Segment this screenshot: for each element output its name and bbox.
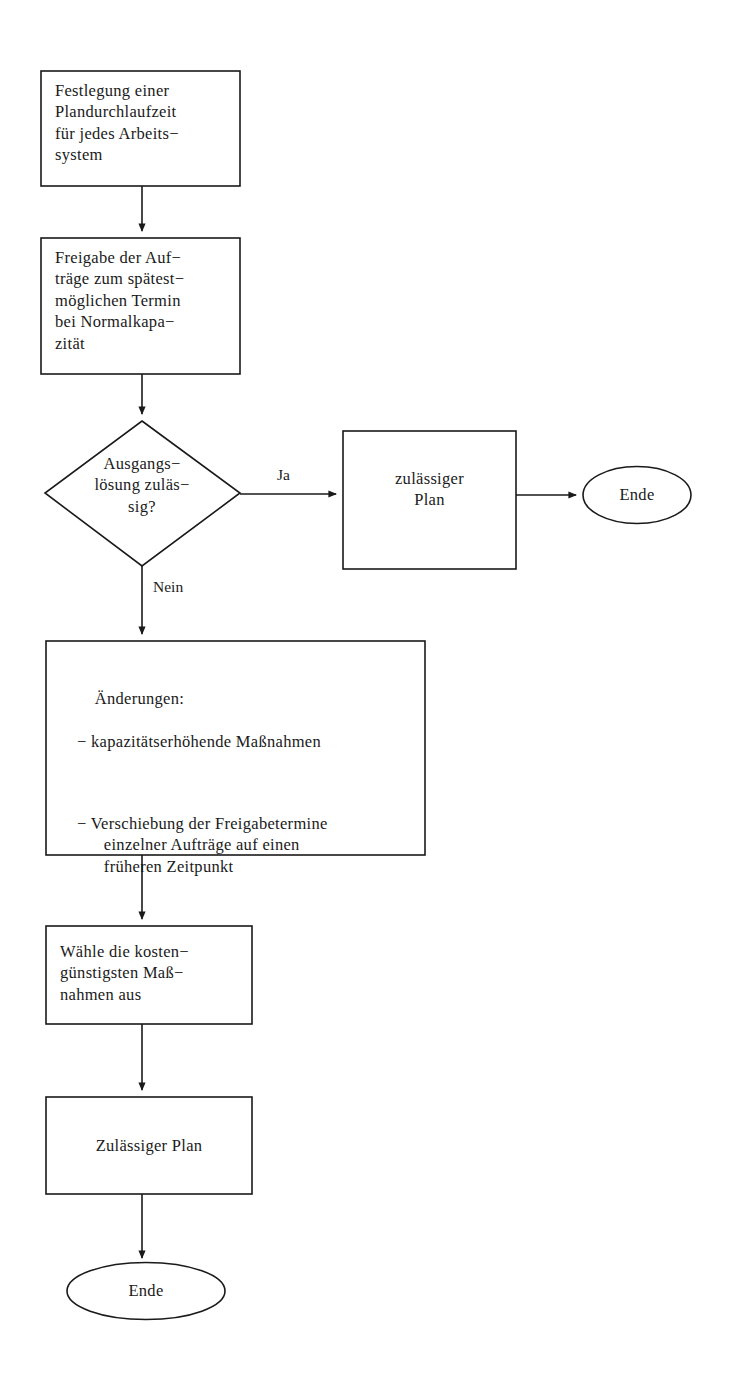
node-label-festlegung: Festlegung einer Plandurchlaufzeit für j… [55, 80, 235, 166]
node-label-zulaessiger-plan-final: Zulässiger Plan [46, 1135, 252, 1156]
edge-label-nein: Nein [153, 578, 183, 596]
node-label-aenderungen: Änderungen: − kapazitätserhöhende Maßnah… [77, 666, 417, 921]
aenderungen-bullet-1: − kapazitätserhöhende Maßnahmen [77, 731, 417, 753]
node-label-ende-final: Ende [67, 1280, 225, 1301]
node-label-waehle-massnahmen: Wähle die kosten− günstigsten Maß− nahme… [60, 941, 250, 1005]
node-label-decision-ausgangsloesung: Ausgangs− lösung zuläs− sig? [45, 453, 239, 517]
flowchart-page: Festlegung einer Plandurchlaufzeit für j… [0, 0, 742, 1381]
node-label-zulaessiger-plan-ja: zulässiger Plan [343, 468, 516, 511]
edge-label-ja: Ja [277, 466, 290, 484]
node-label-freigabe: Freigabe der Auf− träge zum spätest− mög… [55, 247, 240, 354]
node-label-ende-ja: Ende [583, 484, 691, 505]
aenderungen-heading: Änderungen: [95, 689, 184, 708]
aenderungen-bullet-2: − Verschiebung der Freigabetermine einze… [77, 813, 417, 878]
